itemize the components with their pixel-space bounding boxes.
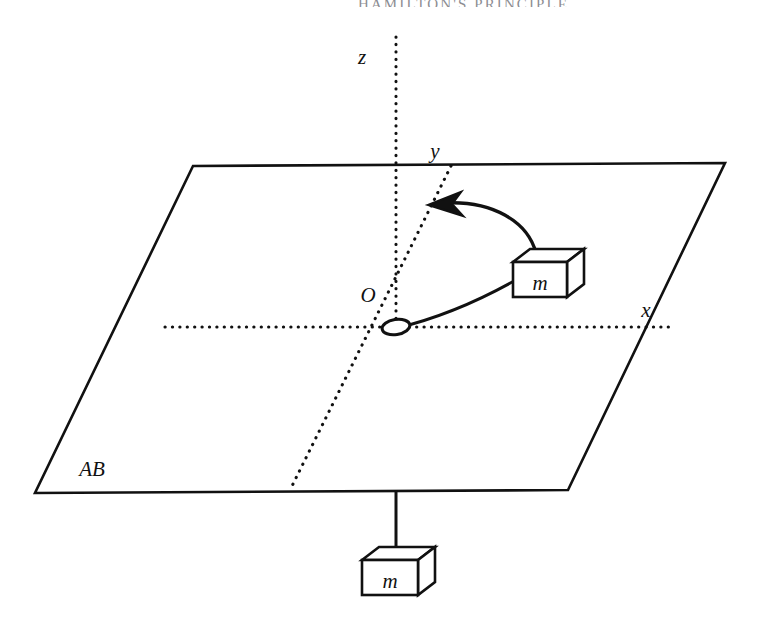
physics-diagram: z y x O: [0, 0, 777, 624]
plane-AB-label: AB: [77, 457, 105, 481]
axis-x-label: x: [640, 298, 651, 322]
figure-root: HAMILTON'S PRINCIPLE z y x: [0, 0, 777, 624]
origin-label: O: [360, 283, 375, 307]
block-on-plane: m: [513, 249, 584, 297]
axis-z-label: z: [357, 45, 366, 69]
hanging-block-label: m: [382, 569, 397, 593]
axis-y-label: y: [428, 139, 440, 163]
hanging-block: m: [362, 547, 435, 595]
block-on-plane-label: m: [532, 271, 547, 295]
